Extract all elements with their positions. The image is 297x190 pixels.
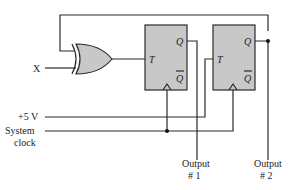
output2-label-line2: # 2	[260, 170, 273, 181]
xor-gate	[72, 44, 112, 74]
ff2-q-pin: Q	[244, 36, 252, 47]
output1-wire	[187, 41, 197, 160]
output2-label-line1: Output	[254, 158, 282, 169]
clock-label-line2: clock	[14, 137, 36, 148]
output1-label-line2: # 1	[188, 170, 201, 181]
ff2-qbar-pin: Q	[244, 73, 252, 84]
t-flipflop-1: T Q Q	[145, 25, 187, 90]
x-input-label: X	[33, 63, 41, 74]
circuit-diagram: X T Q Q T Q Q +5 V System clock Output #…	[0, 0, 297, 190]
ff1-q-pin: Q	[176, 36, 184, 47]
vcc-label: +5 V	[18, 111, 39, 122]
junction-dot-q2	[266, 39, 270, 43]
clock-label-line1: System	[5, 125, 35, 136]
ff1-qbar-pin: Q	[176, 73, 184, 84]
output1-label-line1: Output	[182, 158, 210, 169]
junction-dot-clock	[165, 129, 169, 133]
output2-wire	[255, 41, 268, 160]
t-flipflop-2: T Q Q	[213, 25, 255, 90]
